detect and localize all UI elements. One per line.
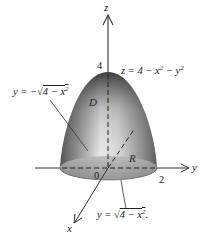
origin-label: 0 bbox=[94, 171, 99, 182]
right-eq-lhs: y = bbox=[97, 209, 114, 220]
surface-eq-exp2: 2 bbox=[180, 64, 184, 72]
region-R-label: R bbox=[129, 153, 136, 164]
paraboloid-figure: z y x 4 0 2 D R z = 4 − x2 − y2 y = −√4 … bbox=[0, 0, 210, 240]
left-eq-radicand-text: 4 − x bbox=[43, 86, 65, 97]
y-intercept-label: 2 bbox=[159, 175, 164, 186]
z-axis-label: z bbox=[104, 2, 108, 13]
surface-equation: z = 4 − x2 − y2 bbox=[121, 66, 184, 77]
right-eq-radicand: 4 − x2 bbox=[120, 209, 146, 220]
solid-D-label: D bbox=[89, 97, 97, 108]
y-axis-label: y bbox=[192, 162, 197, 173]
right-eq-period: . bbox=[146, 209, 149, 220]
left-eq-radicand: 4 − x2 bbox=[43, 86, 69, 97]
left-boundary-equation: y = −√4 − x2 bbox=[13, 87, 69, 98]
surface-eq-part1: z = 4 − x bbox=[121, 65, 160, 76]
surface-eq-part2: − y bbox=[163, 65, 180, 76]
right-boundary-equation: y = √4 − x2. bbox=[97, 210, 148, 221]
left-eq-exp: 2 bbox=[65, 85, 69, 93]
x-axis-label: x bbox=[67, 223, 72, 234]
right-eq-radicand-text: 4 − x bbox=[120, 209, 142, 220]
leader-right-boundary bbox=[121, 180, 126, 209]
paraboloid-diagram bbox=[0, 0, 210, 240]
z-intercept-label: 4 bbox=[97, 61, 102, 72]
left-eq-lhs: y = − bbox=[13, 86, 37, 97]
